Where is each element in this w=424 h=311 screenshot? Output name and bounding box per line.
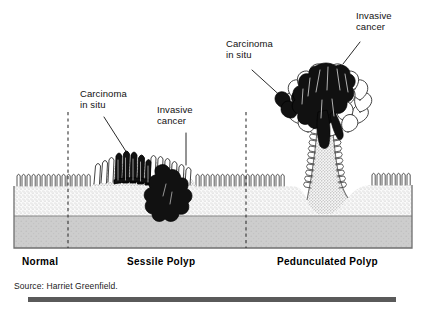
leader-carcinoma-in-situ-left [104,117,127,153]
label-line-2: cancer [356,21,385,32]
zone-label-normal: Normal [22,256,58,267]
label-line-1: Invasive [356,10,392,21]
zone-label-sessile-polyp: Sessile Polyp [127,256,195,267]
label-carcinoma-in-situ-left: Carcinoma in situ [80,88,127,110]
label-line-2: cancer [157,115,186,126]
label-invasive-cancer-left: Invasive cancer [157,104,193,126]
tissue-block [14,185,412,248]
zone-label-pedunculated-polyp: Pedunculated Polyp [277,256,378,267]
label-invasive-cancer-right: Invasive cancer [356,10,392,32]
label-line-2: in situ [80,99,106,110]
mucosal-crypt-surface [17,173,410,186]
label-line-1: Carcinoma [226,38,273,49]
label-line-1: Invasive [157,104,193,115]
bottom-rule [28,297,396,302]
muscularis-layer [14,216,412,248]
label-carcinoma-in-situ-right: Carcinoma in situ [226,38,273,60]
sessile-carcinoma-in-situ [114,151,151,185]
label-line-1: Carcinoma [80,88,127,99]
label-line-2: in situ [226,49,252,60]
leader-invasive-cancer-right [343,42,360,64]
source-credit: Source: Harriet Greenfield. [14,281,118,291]
leader-carcinoma-in-situ-right [252,70,285,100]
